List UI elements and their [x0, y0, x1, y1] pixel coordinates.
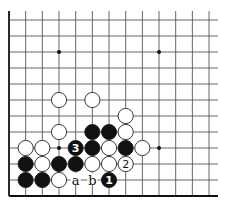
black-stone-move-1: 1 [101, 172, 116, 187]
black-stone-icon [85, 140, 100, 155]
white-stone [18, 140, 33, 155]
white-stone-icon [85, 92, 100, 107]
move-number: 1 [105, 174, 113, 187]
black-stone [35, 172, 50, 187]
white-stone [51, 124, 66, 139]
black-stone [18, 172, 33, 187]
black-stone-icon [51, 156, 66, 171]
white-stone-icon [101, 140, 116, 155]
black-stone [85, 124, 100, 139]
point-label-a: a [71, 173, 81, 188]
white-stone-icon [135, 140, 150, 155]
move-number: 3 [72, 142, 80, 155]
star-point-icon [57, 146, 61, 150]
white-stone [85, 92, 100, 107]
star-point-icon [57, 50, 61, 54]
white-stone [85, 156, 100, 171]
white-stone-icon [85, 156, 100, 171]
white-stone [118, 108, 133, 123]
black-stone-icon [18, 156, 33, 171]
black-stone-icon [85, 124, 100, 139]
white-stone-icon [18, 140, 33, 155]
white-stone-icon [118, 108, 133, 123]
point-label-text: a [72, 173, 80, 188]
white-stone-icon [101, 156, 116, 171]
star-point-icon [157, 146, 161, 150]
black-stone [101, 124, 116, 139]
white-stone [35, 140, 50, 155]
white-stone-icon [118, 124, 133, 139]
black-stone-icon [68, 156, 83, 171]
point-label-b: b [87, 173, 97, 188]
black-stone [51, 156, 66, 171]
stones: 321 [18, 92, 150, 187]
black-stone [68, 156, 83, 171]
black-stone [85, 140, 100, 155]
white-stone-icon [51, 124, 66, 139]
move-number: 2 [122, 158, 129, 171]
black-stone-icon [18, 172, 33, 187]
white-stone [51, 172, 66, 187]
black-stone [118, 140, 133, 155]
white-stone [101, 140, 116, 155]
white-stone-icon [35, 140, 50, 155]
black-stone-icon [118, 140, 133, 155]
white-stone-icon [51, 92, 66, 107]
star-point-icon [157, 50, 161, 54]
white-stone [101, 156, 116, 171]
point-label-text: b [88, 173, 96, 188]
white-stone [35, 156, 50, 171]
white-stone-icon [35, 156, 50, 171]
white-stone [135, 140, 150, 155]
white-stone [51, 92, 66, 107]
black-stone [18, 156, 33, 171]
white-stone-move-2: 2 [118, 156, 133, 171]
white-stone [118, 124, 133, 139]
black-stone-move-3: 3 [68, 140, 83, 155]
go-board-diagram: 321 ab [0, 0, 231, 209]
black-stone-icon [101, 124, 116, 139]
black-stone-icon [35, 172, 50, 187]
white-stone-icon [51, 172, 66, 187]
